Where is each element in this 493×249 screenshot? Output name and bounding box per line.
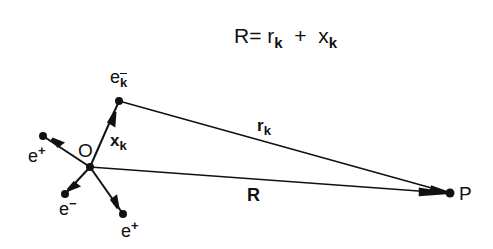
eplus-upper-sup: + xyxy=(38,143,46,158)
origin-dot xyxy=(86,163,94,171)
eplus-upper-base: e xyxy=(28,146,38,166)
equation-lhs: R xyxy=(234,24,249,47)
vector-rk xyxy=(119,101,446,192)
ek-sub: k xyxy=(120,75,127,90)
equation: R= rk + xk xyxy=(234,25,337,50)
equation-term2: x xyxy=(318,24,329,47)
equation-equals: = xyxy=(249,24,261,47)
eplus-lower-sup: + xyxy=(131,218,139,233)
rk-base: r xyxy=(257,116,264,135)
rk-sub: k xyxy=(264,123,271,138)
particle-dot-eplus-2 xyxy=(119,210,127,218)
label-origin: O xyxy=(78,141,93,160)
diagram-canvas: R= rk + xk O P ek xk rk R e+ e− e+ xyxy=(0,0,493,249)
vector-R xyxy=(90,167,446,193)
equation-term2-sub: k xyxy=(329,34,337,51)
label-ek-minus: ek xyxy=(110,68,127,89)
xk-sub: k xyxy=(119,138,126,153)
ek-base: e xyxy=(110,67,120,87)
particle-dot-eplus-1 xyxy=(39,132,47,140)
eminus-sup: − xyxy=(69,196,77,211)
label-P: P xyxy=(459,184,472,203)
label-xk: xk xyxy=(110,132,127,152)
equation-plus: + xyxy=(294,24,306,47)
eplus-lower-base: e xyxy=(121,221,131,241)
arrow-icon xyxy=(68,183,78,190)
label-eplus-upper: e+ xyxy=(28,144,46,165)
equation-term1-sub: k xyxy=(274,34,282,51)
arrow-icon xyxy=(109,112,115,125)
label-R: R xyxy=(247,186,260,204)
eminus-base: e xyxy=(59,199,69,219)
label-rk: rk xyxy=(257,117,271,137)
arrow-icon xyxy=(112,197,118,208)
point-P-dot xyxy=(446,189,455,198)
arrow-icon xyxy=(52,139,62,146)
ek-sub-with-bar: k xyxy=(120,76,127,89)
label-eplus-lower: e+ xyxy=(121,219,139,240)
label-eminus: e− xyxy=(59,197,77,218)
